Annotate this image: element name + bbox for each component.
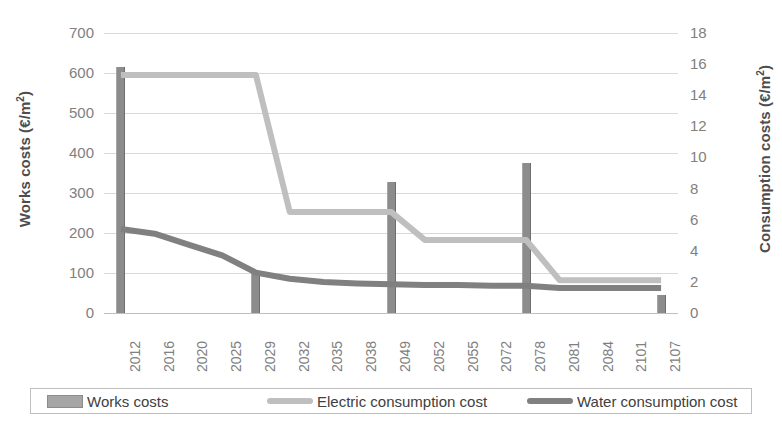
x-axis-label: 2107 [667, 341, 683, 372]
legend-swatch-line-water-icon [527, 398, 573, 404]
right-axis-tick: 4 [690, 243, 732, 258]
right-axis-title-text: Consumption costs (€/m [756, 76, 773, 253]
left-axis-tick: 300 [52, 185, 94, 200]
chart-legend: Works costs Electric consumption cost Wa… [30, 388, 752, 414]
x-axis-label: 2081 [566, 341, 582, 372]
x-axis-label: 2020 [194, 341, 210, 372]
left-axis-tick: 500 [52, 105, 94, 120]
left-axis-title-text: Works costs (€/m [16, 102, 33, 228]
x-axis-label: 2012 [127, 341, 143, 372]
plot-area [104, 33, 678, 313]
legend-swatch-line-electric-icon [267, 398, 313, 404]
chart-container: Works costs (€/m2) Consumption costs (€/… [0, 0, 782, 427]
left-axis-tick: 700 [52, 25, 94, 40]
left-axis-tick: 0 [52, 305, 94, 320]
x-axis-label: 2035 [329, 341, 345, 372]
x-axis-label: 2055 [465, 341, 481, 372]
left-axis-tick: 200 [52, 225, 94, 240]
right-axis-tick: 16 [690, 56, 732, 71]
left-axis-tick: 400 [52, 145, 94, 160]
right-axis-tick: 14 [690, 87, 732, 102]
right-axis-tick: 0 [690, 305, 732, 320]
right-axis-tick: 2 [690, 274, 732, 289]
right-axis-tick: 10 [690, 149, 732, 164]
x-axis-label: 2049 [397, 341, 413, 372]
right-axis-tick: 12 [690, 118, 732, 133]
right-axis-title-sup: 2 [755, 70, 766, 76]
x-axis-label: 2029 [262, 341, 278, 372]
legend-item-water-consumption-cost: Water consumption cost [527, 393, 737, 410]
right-axis-tick: 8 [690, 181, 732, 196]
x-axis-label: 2025 [228, 341, 244, 372]
x-axis-labels: 2012201620202025202920322035203820492052… [104, 316, 678, 376]
legend-item-electric-consumption-cost: Electric consumption cost [267, 393, 487, 410]
line-series-layer [104, 33, 678, 313]
x-axis-label: 2052 [431, 341, 447, 372]
right-axis-tick: 6 [690, 212, 732, 227]
right-axis-title-suffix: ) [756, 65, 773, 70]
legend-swatch-bar-icon [47, 395, 83, 408]
left-axis-title-suffix: ) [16, 91, 33, 96]
left-axis-ticks: 7006005004003002001000 [52, 33, 94, 313]
right-axis-title: Consumption costs (€/m2) [755, 49, 773, 269]
x-axis-line [104, 313, 678, 314]
x-axis-label: 2016 [161, 341, 177, 372]
x-axis-label: 2032 [296, 341, 312, 372]
left-axis-tick: 600 [52, 65, 94, 80]
left-axis-title: Works costs (€/m2) [15, 49, 33, 269]
x-axis-label: 2072 [498, 341, 514, 372]
legend-label-water-consumption-cost: Water consumption cost [577, 393, 737, 410]
legend-label-electric-consumption-cost: Electric consumption cost [317, 393, 487, 410]
right-axis-ticks: 181614121086420 [690, 33, 732, 313]
x-axis-label: 2101 [633, 341, 649, 372]
left-axis-tick: 100 [52, 265, 94, 280]
legend-item-works-costs: Works costs [47, 393, 168, 410]
right-axis-tick: 18 [690, 25, 732, 40]
left-axis-title-sup: 2 [15, 96, 26, 102]
x-axis-label: 2078 [532, 341, 548, 372]
x-axis-label: 2038 [363, 341, 379, 372]
legend-label-works-costs: Works costs [87, 393, 168, 410]
x-axis-label: 2084 [600, 341, 616, 372]
